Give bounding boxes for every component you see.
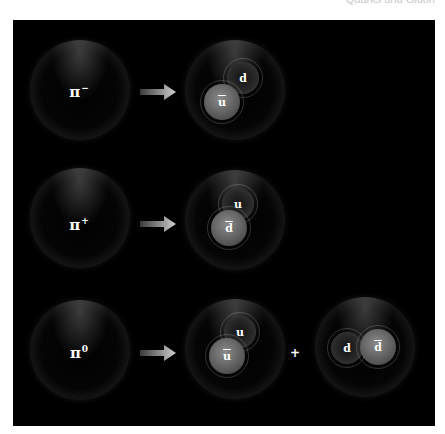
antiquark-u-bar: u bbox=[209, 338, 245, 374]
pion-charge: 0 bbox=[82, 344, 88, 354]
pion-charge: + bbox=[81, 216, 89, 226]
pion-symbol: π bbox=[70, 344, 81, 362]
plus-sign: + bbox=[290, 346, 300, 360]
antiquark-d-bar: d bbox=[360, 329, 396, 365]
quark-label: u bbox=[236, 326, 244, 339]
quark-d: d bbox=[331, 332, 363, 364]
diagram-panel: π− d u π+ u d π0 u bbox=[13, 20, 435, 426]
pion-minus-label: π− bbox=[69, 83, 89, 101]
quark-label: u bbox=[234, 198, 242, 211]
quark-label: u bbox=[223, 350, 231, 363]
quark-label: d bbox=[225, 222, 233, 235]
pion-charge: − bbox=[81, 83, 89, 93]
pion-plus-label: π+ bbox=[69, 216, 89, 234]
pion-symbol: π bbox=[69, 83, 80, 101]
arrow-icon bbox=[140, 216, 176, 232]
pion-zero-label: π0 bbox=[70, 344, 88, 362]
quark-label: d bbox=[343, 342, 351, 355]
quark-label: d bbox=[239, 72, 247, 85]
arrow-icon bbox=[140, 84, 176, 100]
antiquark-d-bar: d bbox=[211, 210, 247, 246]
pion-symbol: π bbox=[69, 216, 80, 234]
arrow-icon bbox=[140, 345, 176, 361]
antiquark-u-bar: u bbox=[204, 84, 240, 120]
cropped-header-text: Quarks und Gluon bbox=[346, 0, 435, 5]
quark-label: d bbox=[374, 341, 382, 354]
quark-label: u bbox=[218, 96, 226, 109]
